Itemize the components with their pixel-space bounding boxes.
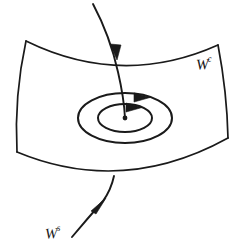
incoming-trajectory-arrow-icon: [110, 44, 121, 60]
center-manifold-label-base: W: [195, 56, 208, 73]
center-manifold-label: Wc: [195, 55, 212, 72]
fixed-point-dot: [123, 116, 128, 121]
surface-right-edge: [218, 45, 228, 138]
stable-manifold-arrow-icon: [91, 198, 106, 214]
surface-top-edge: [26, 41, 218, 66]
incoming-trajectory-curve: [93, 4, 125, 118]
surface-left-edge: [16, 41, 26, 152]
stable-manifold-label: Ws: [45, 225, 61, 242]
stable-manifold-label-base: W: [45, 225, 58, 242]
incoming-trajectory: [93, 4, 125, 118]
stable-manifold-trajectory: [72, 176, 114, 237]
center-manifold-figure: Wc Ws: [0, 0, 240, 249]
diagram-canvas: [0, 0, 240, 249]
stable-manifold-curve: [72, 176, 114, 237]
stable-manifold-label-superscript: s: [56, 223, 60, 233]
center-manifold-label-superscript: c: [207, 53, 212, 63]
